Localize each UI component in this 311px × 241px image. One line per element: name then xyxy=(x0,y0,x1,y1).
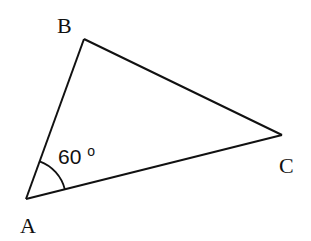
vertex-label-b: B xyxy=(57,13,72,38)
angle-value-label: 60 o xyxy=(58,143,95,168)
edge-bc xyxy=(84,39,282,135)
triangle-diagram: B C A 60 o xyxy=(0,0,311,241)
edge-ab xyxy=(26,39,84,199)
vertex-label-a: A xyxy=(20,213,36,238)
angle-value: 60 xyxy=(58,145,81,168)
vertex-label-c: C xyxy=(279,153,294,178)
degree-symbol: o xyxy=(87,143,95,159)
triangle-abc xyxy=(26,39,282,199)
